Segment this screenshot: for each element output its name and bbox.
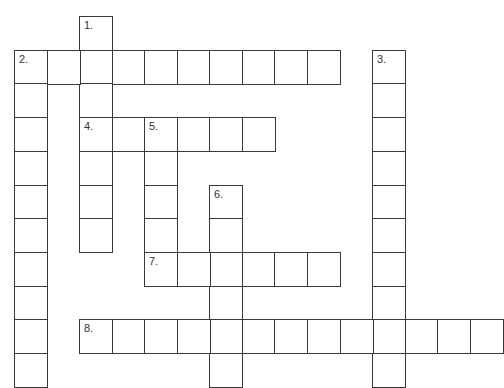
crossword-cell[interactable]: 7. <box>144 252 178 287</box>
crossword-cell[interactable] <box>274 252 308 287</box>
crossword-cell[interactable] <box>437 319 471 354</box>
crossword-cell[interactable] <box>470 319 504 354</box>
crossword-cell[interactable] <box>372 252 406 287</box>
clue-number: 5. <box>149 121 158 132</box>
crossword-cell[interactable] <box>405 319 439 354</box>
crossword-cell[interactable] <box>47 50 81 85</box>
crossword-cell[interactable] <box>112 319 146 354</box>
crossword-cell[interactable]: 2. <box>14 50 48 85</box>
crossword-cell[interactable] <box>14 353 48 388</box>
crossword-cell[interactable] <box>307 252 341 287</box>
crossword-cell[interactable] <box>372 353 406 388</box>
crossword-cell[interactable] <box>14 151 48 186</box>
crossword-cell[interactable] <box>209 252 243 287</box>
crossword-cell[interactable] <box>14 252 48 287</box>
crossword-cell[interactable] <box>372 218 406 253</box>
clue-number: 3. <box>377 54 386 65</box>
crossword-cell[interactable] <box>14 319 48 354</box>
crossword-cell[interactable] <box>177 319 211 354</box>
crossword-cell[interactable] <box>372 185 406 220</box>
crossword-cell[interactable] <box>14 185 48 220</box>
crossword-cell[interactable] <box>242 319 276 354</box>
crossword-cell[interactable] <box>209 353 243 388</box>
crossword-cell[interactable]: 4. <box>79 117 113 152</box>
crossword-cell[interactable] <box>14 117 48 152</box>
clue-number: 7. <box>149 256 158 267</box>
clue-number: 2. <box>19 54 28 65</box>
crossword-cell[interactable] <box>209 319 243 354</box>
clue-number: 6. <box>214 189 223 200</box>
clue-number: 1. <box>84 20 93 31</box>
crossword-cell[interactable] <box>177 50 211 85</box>
crossword-cell[interactable] <box>79 83 113 118</box>
crossword-cell[interactable] <box>372 83 406 118</box>
crossword-cell[interactable] <box>307 319 341 354</box>
crossword-cell[interactable]: 1. <box>79 16 113 51</box>
crossword-cell[interactable] <box>242 117 276 152</box>
crossword-cell[interactable] <box>14 286 48 321</box>
clue-number: 8. <box>84 323 93 334</box>
crossword-cell[interactable] <box>177 117 211 152</box>
crossword-cell[interactable] <box>14 83 48 118</box>
crossword-cell[interactable] <box>144 151 178 186</box>
crossword-cell[interactable] <box>307 50 341 85</box>
crossword-cell[interactable] <box>209 50 243 85</box>
crossword-cell[interactable]: 5. <box>144 117 178 152</box>
crossword-cell[interactable] <box>79 218 113 253</box>
crossword-cell[interactable] <box>112 50 146 85</box>
crossword-cell[interactable] <box>79 185 113 220</box>
crossword-cell[interactable] <box>177 252 211 287</box>
crossword-cell[interactable] <box>209 117 243 152</box>
crossword-cell[interactable] <box>79 50 113 85</box>
crossword-cell[interactable]: 3. <box>372 50 406 85</box>
crossword-cell[interactable] <box>372 151 406 186</box>
crossword-cell[interactable] <box>14 218 48 253</box>
crossword-cell[interactable] <box>242 252 276 287</box>
crossword-cell[interactable] <box>112 117 146 152</box>
crossword-cell[interactable]: 8. <box>79 319 113 354</box>
crossword-cell[interactable] <box>372 319 406 354</box>
crossword-cell[interactable] <box>274 319 308 354</box>
crossword-cell[interactable] <box>372 286 406 321</box>
crossword-cell[interactable] <box>209 286 243 321</box>
crossword-cell[interactable]: 6. <box>209 185 243 220</box>
crossword-cell[interactable] <box>79 151 113 186</box>
crossword-cell[interactable] <box>144 185 178 220</box>
crossword-cell[interactable] <box>340 319 374 354</box>
crossword-cell[interactable] <box>144 218 178 253</box>
crossword-cell[interactable] <box>209 218 243 253</box>
clue-number: 4. <box>84 121 93 132</box>
crossword-cell[interactable] <box>242 50 276 85</box>
crossword-cell[interactable] <box>274 50 308 85</box>
crossword-cell[interactable] <box>144 50 178 85</box>
crossword-cell[interactable] <box>144 319 178 354</box>
crossword-cell[interactable] <box>372 117 406 152</box>
